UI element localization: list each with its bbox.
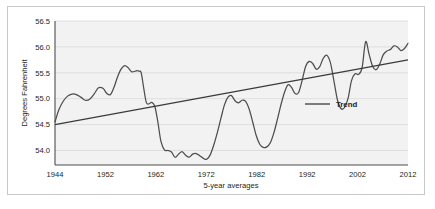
- x-tick-label: 1972: [198, 170, 215, 179]
- y-axis-title: Degrees Fahrenheit: [20, 59, 29, 127]
- legend-label-trend: Trend: [336, 100, 357, 109]
- x-tick-label: 1952: [97, 170, 114, 179]
- x-tick-label: 1982: [248, 170, 265, 179]
- x-tick-label: 2012: [400, 170, 417, 179]
- y-tick-label: 54.0: [35, 146, 50, 155]
- y-tick-label: 55.0: [35, 94, 50, 103]
- temperature-line-chart: 56.556.055.555.054.554.0 194419521962197…: [0, 0, 435, 209]
- y-tick-label: 54.5: [35, 120, 50, 129]
- plot-area-background: [55, 21, 408, 165]
- y-tick-label: 55.5: [35, 69, 50, 78]
- x-axis-tick-labels: 19441952196219721982199220022012: [47, 170, 417, 179]
- x-tick-label: 2002: [349, 170, 366, 179]
- x-axis-title: 5-year averages: [204, 181, 259, 190]
- chart-figure: 56.556.055.555.054.554.0 194419521962197…: [0, 0, 435, 209]
- x-tick-label: 1992: [299, 170, 316, 179]
- y-tick-label: 56.5: [35, 17, 50, 26]
- x-tick-label: 1962: [147, 170, 164, 179]
- y-tick-label: 56.0: [35, 43, 50, 52]
- y-axis-tick-labels: 56.556.055.555.054.554.0: [35, 17, 50, 155]
- x-tick-label: 1944: [47, 170, 64, 179]
